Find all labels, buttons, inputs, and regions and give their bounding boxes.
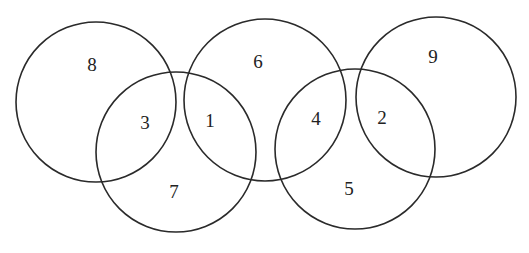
venn-ring-diagram: 8 3 7 1 6 4 5 2 9 — [0, 0, 529, 253]
region-label: 3 — [140, 112, 150, 133]
region-label: 7 — [169, 181, 179, 202]
region-label: 8 — [87, 54, 97, 75]
region-label: 6 — [253, 51, 263, 72]
ring-circle-5 — [356, 17, 516, 177]
region-label: 4 — [311, 108, 321, 129]
region-label: 2 — [377, 107, 387, 128]
ring-circle-4 — [275, 69, 435, 229]
ring-circle-3 — [184, 19, 346, 181]
region-label: 9 — [428, 46, 438, 67]
region-label: 1 — [205, 110, 215, 131]
region-label: 5 — [344, 178, 354, 199]
